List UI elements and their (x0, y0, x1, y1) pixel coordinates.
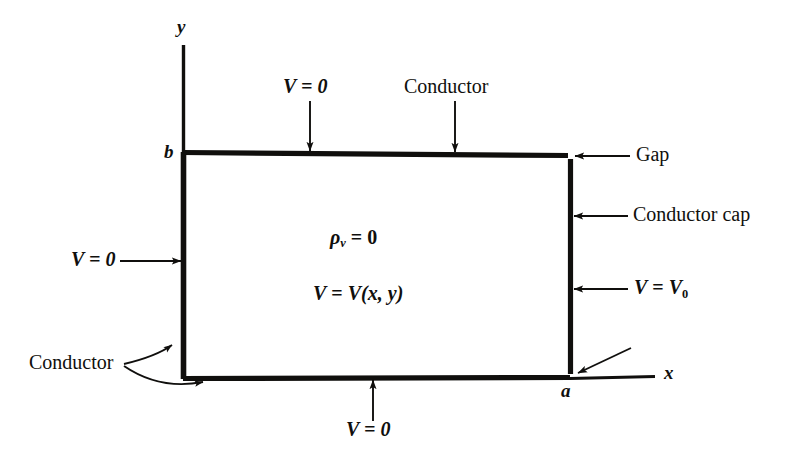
top-conductor-wall (182, 153, 568, 156)
right-potential-rhs: V (669, 276, 682, 298)
right-potential-lhs: V (634, 276, 647, 298)
bottom-potential-label: V = 0 (346, 419, 390, 439)
charge-density-equation: ρv=0 (330, 227, 377, 250)
y-axis-label: y (177, 17, 185, 36)
charge-density-value: 0 (367, 226, 377, 248)
charge-density-subscript: v (340, 236, 346, 250)
figure-canvas: y x b a V = 0 Conductor V = 0 Conductor … (0, 0, 788, 462)
bottom-gap-leader (578, 348, 631, 373)
x-axis-line (570, 377, 655, 379)
top-conductor-label: Conductor (404, 76, 488, 96)
left-potential-label: V = 0 (71, 249, 115, 269)
potential-function-equation: V=V(x, y) (313, 283, 403, 303)
left-potential-text: V = 0 (71, 248, 115, 270)
potential-function-lhs: V (313, 282, 326, 304)
bottom-conductor-wall (183, 378, 570, 379)
top-potential-label: V = 0 (283, 76, 327, 96)
conductor-cap-label: Conductor cap (633, 204, 750, 224)
potential-function-relation: = (326, 282, 347, 304)
charge-density-relation: = (346, 226, 367, 248)
left-conductor-label: Conductor (29, 352, 113, 372)
bottom-potential-text: V = 0 (346, 418, 390, 440)
right-potential-label: V=V0 (634, 277, 688, 300)
x-axis-label: x (664, 363, 674, 382)
right-potential-relation: = (647, 276, 668, 298)
charge-density-symbol: ρ (330, 226, 340, 248)
x-tick-label-a: a (561, 381, 571, 400)
right-potential-subscript: 0 (682, 287, 688, 301)
y-tick-label-b: b (164, 142, 174, 161)
top-gap-label: Gap (636, 144, 669, 164)
figure-drawing (0, 0, 788, 462)
top-potential-text: V = 0 (283, 75, 327, 97)
potential-function-rhs: V(x, y) (348, 282, 404, 304)
